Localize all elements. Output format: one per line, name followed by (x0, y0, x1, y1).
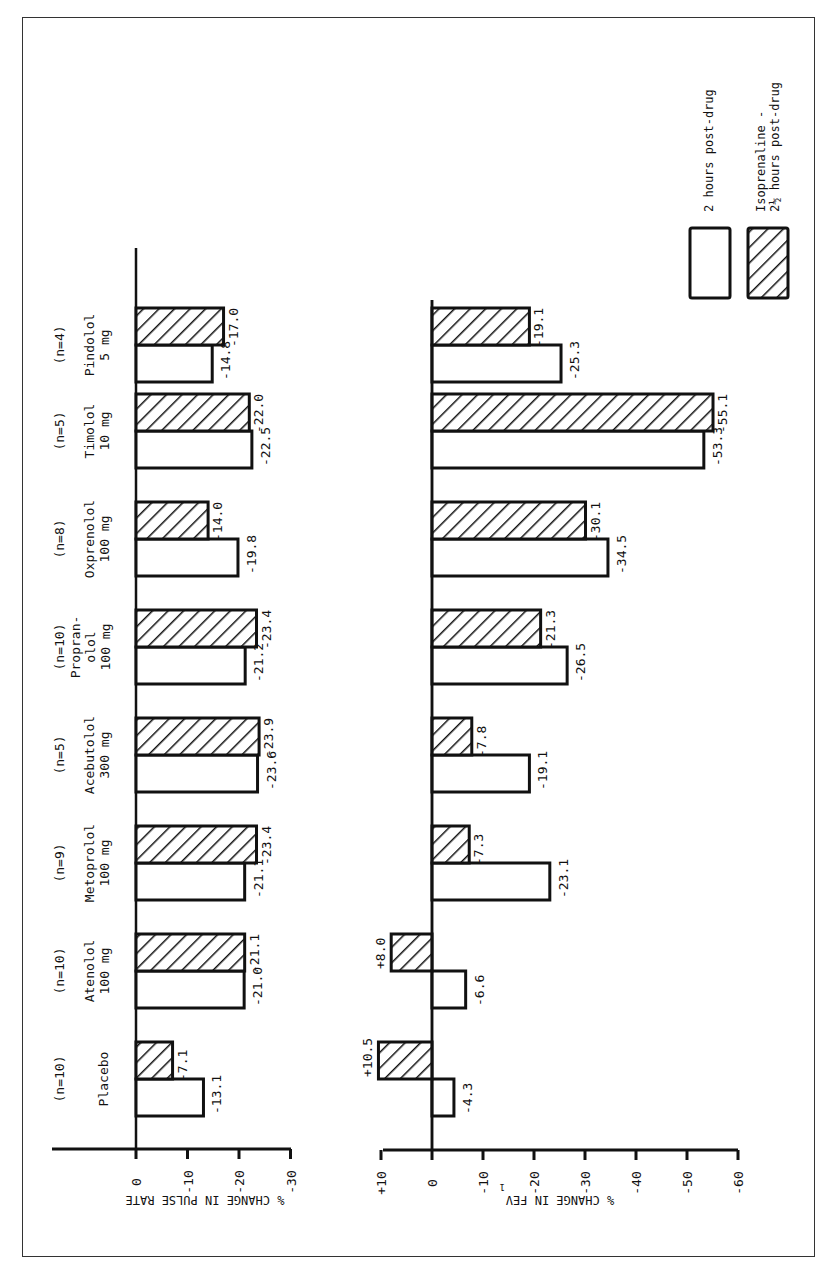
bar-isoprenaline (391, 934, 432, 971)
data-label-2h: -13.1 (209, 1075, 224, 1114)
data-label-isoprenaline: +8.0 (373, 938, 388, 969)
bar-isoprenaline (136, 826, 257, 863)
fev-axis-title: % CHANGE IN FEV (506, 1193, 614, 1207)
data-label-isoprenaline: -7.8 (474, 726, 489, 757)
data-label-2h: -25.3 (567, 341, 582, 380)
data-label-isoprenaline: +10.5 (360, 1038, 375, 1077)
data-label-isoprenaline: -21.1 (247, 934, 262, 973)
bar-chart-figure: 0-10-20-30-13.1-7.1-21.0-21.1-21.1-23.4-… (0, 0, 827, 1278)
bar-2h-post-drug (136, 971, 244, 1008)
legend-label-isoprenaline-1: Isoprenaline - (754, 111, 768, 212)
fev-axis-subscript: 1 (500, 1182, 505, 1192)
bar-2h-post-drug (432, 1079, 454, 1116)
data-label-isoprenaline: -55.1 (715, 394, 730, 433)
drug-label: Propran- (68, 616, 83, 679)
data-label-2h: -26.5 (573, 643, 588, 682)
bar-2h-post-drug (136, 539, 238, 576)
tick-label: -10 (181, 1170, 196, 1193)
bar-isoprenaline (432, 502, 586, 539)
data-label-isoprenaline: -30.1 (588, 502, 603, 541)
bar-isoprenaline (432, 394, 713, 431)
bar-isoprenaline (136, 502, 208, 539)
bar-isoprenaline (432, 308, 529, 345)
drug-label: 100 mg (97, 948, 112, 995)
drug-label: 300 mg (97, 732, 112, 779)
drug-label: 5 mg (97, 329, 112, 360)
data-label-isoprenaline: -23.4 (259, 610, 274, 649)
drug-label: olol (83, 631, 98, 662)
bar-isoprenaline (136, 308, 224, 345)
group-n-label: (n=9) (52, 843, 67, 882)
legend: 2 hours post-drugIsoprenaline -2½ hours … (690, 82, 788, 298)
drug-label: Pindolol (82, 314, 97, 377)
bar-2h-post-drug (432, 345, 561, 382)
drug-label: Placebo (96, 1052, 111, 1107)
bar-2h-post-drug (136, 647, 245, 684)
drug-label: Metoprolol (82, 824, 97, 902)
bar-2h-post-drug (136, 431, 252, 468)
bar-isoprenaline (432, 718, 472, 755)
data-label-2h: -19.8 (244, 535, 259, 574)
drug-label: Acebutolol (82, 716, 97, 794)
bar-2h-post-drug (136, 863, 245, 900)
bar-2h-post-drug (136, 1079, 203, 1116)
legend-swatch-hatched (748, 228, 788, 298)
group-n-label: (n=5) (52, 735, 67, 774)
bar-2h-post-drug (432, 539, 608, 576)
data-label-isoprenaline: -7.3 (471, 834, 486, 865)
tick-label: +10 (374, 1171, 389, 1194)
bar-2h-post-drug (432, 647, 567, 684)
data-label-2h: -6.6 (472, 975, 487, 1006)
group-n-label: (n=5) (52, 411, 67, 450)
data-label-isoprenaline: -19.1 (531, 308, 546, 347)
tick-label: -50 (680, 1171, 695, 1194)
data-label-2h: -34.5 (614, 535, 629, 574)
bar-isoprenaline (136, 934, 245, 971)
tick-label: -60 (731, 1171, 746, 1194)
drug-label: Atenolol (82, 940, 97, 1003)
legend-label-2h: 2 hours post-drug (702, 89, 716, 212)
data-label-2h: -4.3 (460, 1083, 475, 1114)
bar-2h-post-drug (432, 755, 529, 792)
tick-label: 0 (129, 1178, 144, 1186)
bar-2h-post-drug (136, 345, 212, 382)
bar-2h-post-drug (432, 431, 704, 468)
drug-label: Timolol (82, 404, 97, 459)
tick-label: -30 (578, 1171, 593, 1194)
data-label-isoprenaline: -14.0 (210, 502, 225, 541)
bar-2h-post-drug (432, 971, 466, 1008)
bar-2h-post-drug (136, 755, 258, 792)
drug-label: 100 mg (97, 516, 112, 563)
group-n-label: (n=8) (52, 519, 67, 558)
drug-label: 100 mg (97, 840, 112, 887)
bar-isoprenaline (136, 718, 259, 755)
group-labels: (n=10)Placebo(n=10)Atenolol100 mg(n=9)Me… (52, 314, 113, 1107)
data-label-isoprenaline: -23.9 (261, 718, 276, 757)
drug-label: 10 mg (97, 411, 112, 450)
group-n-label: (n=10) (52, 624, 67, 671)
bar-isoprenaline (136, 610, 257, 647)
bar-isoprenaline (432, 610, 541, 647)
group-n-label: (n=10) (52, 948, 67, 995)
data-label-isoprenaline: -21.3 (543, 610, 558, 649)
tick-label: -40 (629, 1171, 644, 1194)
bar-2h-post-drug (432, 863, 550, 900)
drug-label: Oxprenolol (82, 500, 97, 578)
data-label-isoprenaline: -17.0 (226, 308, 241, 347)
data-label-2h: -19.1 (535, 751, 550, 790)
data-label-isoprenaline: -7.1 (175, 1050, 190, 1081)
tick-label: -20 (232, 1170, 247, 1193)
group-n-label: (n=4) (52, 325, 67, 364)
tick-label: -10 (476, 1171, 491, 1194)
data-label-isoprenaline: -23.4 (259, 826, 274, 865)
pulse-axis-title: % CHANGE IN PULSE RATE (126, 1193, 285, 1207)
bar-isoprenaline (136, 394, 249, 431)
bar-isoprenaline (136, 1042, 173, 1079)
group-n-label: (n=10) (52, 1056, 67, 1103)
legend-label-isoprenaline-2: 2½ hours post-drug (768, 82, 782, 212)
bar-isoprenaline (432, 826, 469, 863)
tick-label: 0 (425, 1179, 440, 1187)
drug-label: 100 mg (98, 624, 113, 671)
fev1-panel: +100-10-20-30-40-50-60-4.3+10.5-6.6+8.0-… (360, 300, 746, 1207)
legend-swatch-open (690, 228, 730, 298)
